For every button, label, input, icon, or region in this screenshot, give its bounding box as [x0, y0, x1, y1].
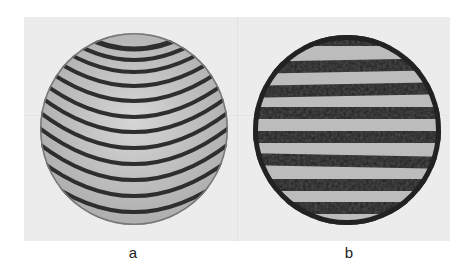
panel-label-b: b [339, 244, 359, 261]
panel-label-a: a [123, 244, 143, 261]
interferogram-b [252, 34, 442, 227]
interferogram-a [38, 31, 230, 229]
panel-divider [237, 17, 238, 241]
